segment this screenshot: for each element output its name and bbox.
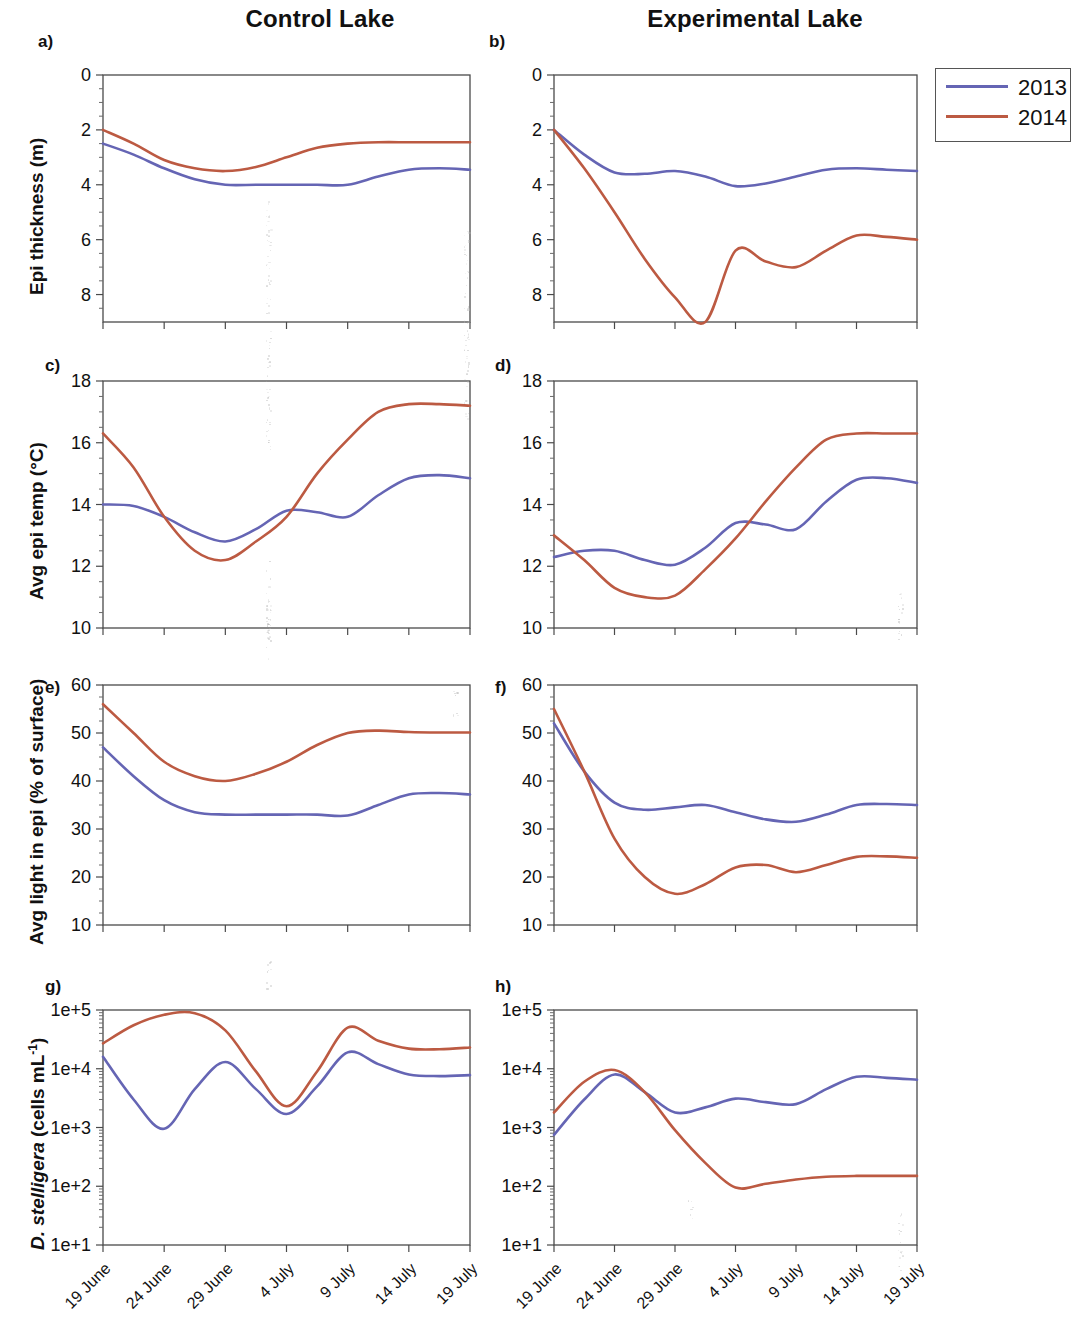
svg-text:1e+4: 1e+4	[50, 1059, 91, 1079]
chart-panel-g: 1e+11e+21e+31e+41e+519 June24 June29 Jun…	[0, 985, 480, 1315]
data-line-2013	[554, 723, 917, 822]
legend: 2013 2014	[935, 68, 1071, 142]
data-line-2014	[103, 404, 470, 561]
svg-text:6: 6	[81, 230, 91, 250]
column-title-experimental: Experimental Lake	[585, 5, 925, 33]
svg-text:40: 40	[71, 771, 91, 791]
svg-text:0: 0	[532, 65, 542, 85]
svg-text:20: 20	[71, 867, 91, 887]
svg-text:0: 0	[81, 65, 91, 85]
chart-panel-d: 1012141618	[451, 363, 931, 648]
legend-swatch-2013	[946, 85, 1008, 88]
svg-text:29 June: 29 June	[633, 1260, 685, 1312]
legend-label-2013: 2013	[1018, 75, 1067, 101]
svg-text:50: 50	[522, 723, 542, 743]
data-line-2013	[554, 130, 917, 187]
svg-text:19 June: 19 June	[512, 1260, 564, 1312]
svg-text:19 July: 19 July	[880, 1260, 928, 1308]
svg-text:14: 14	[522, 495, 542, 515]
svg-text:29 June: 29 June	[184, 1260, 236, 1312]
svg-text:1e+3: 1e+3	[50, 1118, 91, 1138]
chart-panel-e: 102030405060	[0, 665, 480, 950]
svg-text:14: 14	[71, 495, 91, 515]
svg-text:12: 12	[71, 556, 91, 576]
data-line-2014	[103, 704, 470, 781]
svg-text:1e+2: 1e+2	[501, 1176, 542, 1196]
legend-item-2013[interactable]: 2013	[936, 75, 1070, 99]
data-line-2014	[554, 130, 917, 324]
svg-text:1e+4: 1e+4	[501, 1059, 542, 1079]
svg-text:4 July: 4 July	[256, 1260, 298, 1302]
svg-text:8: 8	[532, 285, 542, 305]
figure-canvas: Control Lake Experimental Lake a) b) c) …	[0, 0, 1077, 1324]
svg-text:30: 30	[71, 819, 91, 839]
chart-panel-h: 1e+11e+21e+31e+41e+519 June24 June29 Jun…	[451, 985, 931, 1315]
svg-text:18: 18	[522, 371, 542, 391]
svg-text:4: 4	[532, 175, 542, 195]
svg-text:9 July: 9 July	[765, 1260, 807, 1302]
data-line-2014	[554, 1070, 917, 1189]
svg-text:40: 40	[522, 771, 542, 791]
data-line-2013	[554, 1074, 917, 1134]
panel-letter-b: b)	[489, 32, 505, 52]
svg-text:60: 60	[522, 675, 542, 695]
chart-panel-b: 02468	[451, 60, 931, 335]
svg-text:9 July: 9 July	[317, 1260, 359, 1302]
svg-text:24 June: 24 June	[573, 1260, 625, 1312]
svg-text:14 July: 14 July	[819, 1260, 867, 1308]
svg-text:8: 8	[81, 285, 91, 305]
legend-label-2014: 2014	[1018, 105, 1067, 131]
data-line-2014	[554, 709, 917, 894]
svg-text:12: 12	[522, 556, 542, 576]
legend-swatch-2014	[946, 115, 1008, 118]
svg-text:10: 10	[522, 915, 542, 935]
chart-panel-c: 1012141618	[0, 363, 480, 648]
svg-text:6: 6	[532, 230, 542, 250]
svg-text:16: 16	[522, 433, 542, 453]
data-line-2013	[103, 144, 470, 186]
svg-text:10: 10	[71, 915, 91, 935]
svg-text:2: 2	[532, 120, 542, 140]
legend-item-2014[interactable]: 2014	[936, 105, 1070, 129]
svg-text:19 June: 19 June	[61, 1260, 113, 1312]
data-line-2013	[554, 477, 917, 565]
svg-text:10: 10	[522, 618, 542, 638]
svg-text:20: 20	[522, 867, 542, 887]
column-title-control: Control Lake	[150, 5, 490, 33]
svg-text:16: 16	[71, 433, 91, 453]
svg-text:1e+3: 1e+3	[501, 1118, 542, 1138]
svg-text:1e+5: 1e+5	[501, 1000, 542, 1020]
chart-panel-f: 102030405060	[451, 665, 931, 950]
svg-text:4 July: 4 July	[705, 1260, 747, 1302]
data-line-2014	[554, 433, 917, 599]
svg-text:1e+2: 1e+2	[50, 1176, 91, 1196]
svg-text:60: 60	[71, 675, 91, 695]
data-line-2013	[103, 1052, 470, 1129]
svg-text:1e+1: 1e+1	[50, 1235, 91, 1255]
chart-panel-a: 02468	[0, 60, 480, 335]
panel-letter-a: a)	[38, 32, 53, 52]
svg-text:14 July: 14 July	[372, 1260, 420, 1308]
svg-text:10: 10	[71, 618, 91, 638]
data-line-2014	[103, 1012, 470, 1106]
svg-text:30: 30	[522, 819, 542, 839]
svg-text:4: 4	[81, 175, 91, 195]
svg-text:1e+5: 1e+5	[50, 1000, 91, 1020]
svg-text:24 June: 24 June	[122, 1260, 174, 1312]
svg-text:18: 18	[71, 371, 91, 391]
svg-text:1e+1: 1e+1	[501, 1235, 542, 1255]
svg-text:50: 50	[71, 723, 91, 743]
svg-text:2: 2	[81, 120, 91, 140]
